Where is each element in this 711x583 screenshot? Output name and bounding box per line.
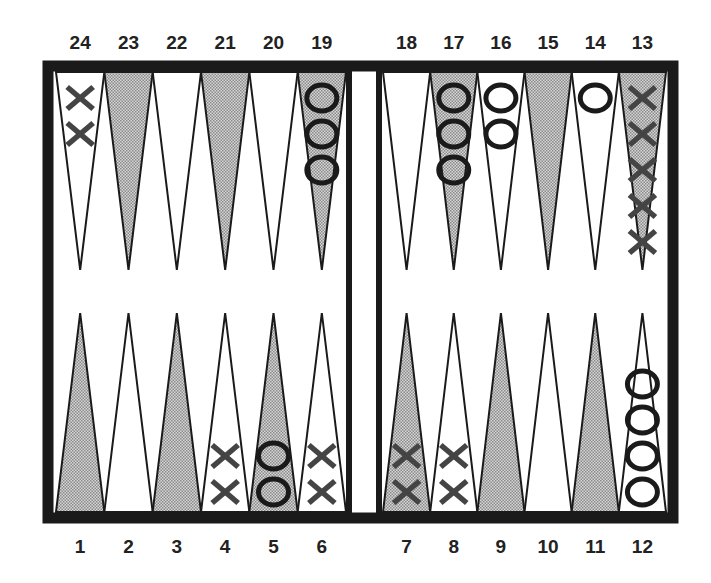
bottom-point-label: 4 xyxy=(205,536,245,558)
top-point-label: 19 xyxy=(302,32,342,54)
bottom-point-label: 7 xyxy=(387,536,427,558)
top-point-label: 20 xyxy=(254,32,294,54)
bottom-point-label: 8 xyxy=(434,536,474,558)
bottom-point-label: 10 xyxy=(528,536,568,558)
top-point-label: 24 xyxy=(60,32,100,54)
bottom-point-label: 6 xyxy=(302,536,342,558)
top-point-label: 16 xyxy=(481,32,521,54)
bottom-point-label: 9 xyxy=(481,536,521,558)
top-point-label: 13 xyxy=(622,32,662,54)
bottom-point-label: 11 xyxy=(575,536,615,558)
backgammon-board xyxy=(0,0,711,583)
top-point-label: 21 xyxy=(205,32,245,54)
bottom-point-label: 1 xyxy=(60,536,100,558)
bar-left-edge xyxy=(346,66,352,518)
top-point-label: 23 xyxy=(109,32,149,54)
top-point-label: 22 xyxy=(157,32,197,54)
bottom-point-label: 2 xyxy=(109,536,149,558)
bottom-point-label: 12 xyxy=(622,536,662,558)
bar-right-edge xyxy=(376,66,382,518)
top-point-label: 17 xyxy=(434,32,474,54)
top-point-label: 15 xyxy=(528,32,568,54)
bottom-point-label: 5 xyxy=(254,536,294,558)
top-point-label: 14 xyxy=(575,32,615,54)
bottom-point-label: 3 xyxy=(157,536,197,558)
top-point-label: 18 xyxy=(387,32,427,54)
